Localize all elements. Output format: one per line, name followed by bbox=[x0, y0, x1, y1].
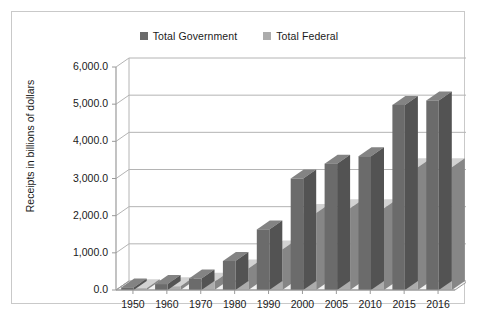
y-tick-label: 1,000.0 bbox=[50, 246, 108, 258]
y-tick-label: 6,000.0 bbox=[50, 60, 108, 72]
y-tick-label: 4,000.0 bbox=[50, 134, 108, 146]
bar-2010-total-government bbox=[359, 147, 385, 290]
y-tick-label: 5,000.0 bbox=[50, 97, 108, 109]
y-tick-label: 2,000.0 bbox=[50, 209, 108, 221]
bar-2005-total-government bbox=[325, 155, 351, 290]
bar-1990-total-government bbox=[257, 220, 283, 290]
y-tick-label: 0.0 bbox=[50, 283, 108, 295]
y-tick-label: 3,000.0 bbox=[50, 172, 108, 184]
bar-2000-total-government bbox=[291, 170, 317, 291]
bar-2016-total-government bbox=[426, 91, 452, 290]
x-tick-label: 2016 bbox=[418, 298, 458, 310]
gridline bbox=[116, 58, 466, 67]
plot-area: Receipts in billions of dollars 0.01,000… bbox=[12, 12, 466, 305]
chart-svg bbox=[12, 12, 466, 305]
chart-frame: Total Government Total Federal Receipts … bbox=[11, 11, 465, 304]
y-axis-title: Receipts in billions of dollars bbox=[24, 66, 36, 226]
bar-2015-total-government bbox=[392, 96, 418, 290]
